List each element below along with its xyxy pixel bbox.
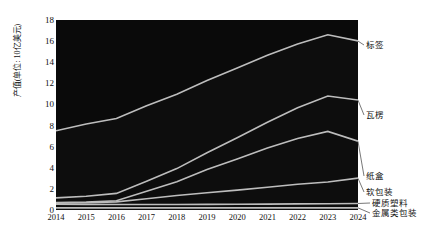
y-tick-label: 8	[32, 121, 54, 130]
leader-软包装	[358, 178, 364, 192]
leader-瓦楞	[358, 100, 364, 115]
boundary-line-硬质塑料	[56, 204, 358, 205]
stacked-area-svg	[56, 20, 358, 210]
y-axis-label: 产值(单位: 10亿美元)	[11, 0, 22, 131]
y-tick-label: 4	[32, 163, 54, 172]
leader-标签	[358, 41, 364, 45]
series-label-纸盒: 纸盒	[366, 172, 384, 181]
chart-container: 产值(单位: 10亿美元) 024681012141618 2014201520…	[0, 0, 443, 246]
y-tick-label: 16	[32, 37, 54, 46]
y-tick-label: 6	[32, 142, 54, 151]
leader-硬质塑料	[358, 203, 370, 204]
y-axis-ticks: 024681012141618	[28, 0, 54, 246]
y-tick-label: 10	[32, 100, 54, 109]
y-tick-label: 2	[32, 184, 54, 193]
series-label-标签: 标签	[366, 41, 384, 50]
y-tick-label: 18	[32, 16, 54, 25]
y-tick-label: 14	[32, 58, 54, 67]
series-label-软包装: 软包装	[366, 188, 393, 197]
y-tick-label: 12	[32, 79, 54, 88]
series-label-瓦楞: 瓦楞	[366, 111, 384, 120]
series-label-金属类包装: 金属类包装	[372, 209, 417, 218]
plot-area	[56, 20, 358, 210]
series-label-硬质塑料: 硬质塑料	[372, 199, 408, 208]
leader-纸盒	[358, 141, 364, 176]
